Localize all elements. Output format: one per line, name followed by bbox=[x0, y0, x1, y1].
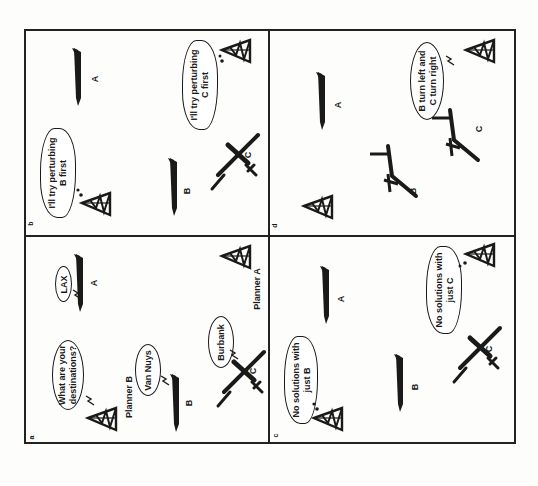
airliner-side-icon bbox=[316, 72, 328, 132]
radio-tower-icon bbox=[314, 408, 344, 432]
panel-letter: c bbox=[272, 434, 279, 438]
planner-b-label: Planner B bbox=[124, 376, 134, 418]
lightning-bolt-icon bbox=[446, 56, 458, 68]
panel-letter: a bbox=[28, 436, 35, 440]
airliner-top-icon bbox=[460, 328, 504, 388]
planner-a-label: Planner A bbox=[252, 268, 262, 310]
aircraft-label-c: C bbox=[248, 368, 258, 375]
airliner-top-icon bbox=[224, 352, 268, 412]
airliner-side-icon bbox=[170, 374, 182, 434]
aircraft-label-a: A bbox=[336, 296, 346, 303]
airliner-side-icon bbox=[74, 254, 86, 314]
lightning-bolt-icon bbox=[161, 376, 169, 386]
radio-tower-icon bbox=[466, 244, 496, 268]
aircraft-label-c: C bbox=[484, 346, 494, 353]
aircraft-label-c: C bbox=[243, 152, 253, 159]
speech-bubble-lax: LAX bbox=[55, 266, 72, 302]
aircraft-label-b: B bbox=[410, 384, 420, 391]
bubble-text-line2: C first bbox=[200, 49, 211, 120]
airliner-turning-icon bbox=[432, 110, 482, 160]
speech-bubble-turn-instructions: B turn left and C turn right bbox=[410, 42, 444, 120]
speech-bubble-destinations: What are your destinations? bbox=[52, 340, 84, 410]
airliner-side-icon bbox=[320, 266, 332, 326]
speech-bubble-van-nuys: Van Nuys bbox=[135, 344, 161, 396]
panel-letter: d bbox=[271, 223, 278, 227]
aircraft-label-b: B bbox=[182, 188, 192, 195]
airliner-side-icon bbox=[168, 158, 180, 218]
bubble-text-line1: I'll try perturbing bbox=[47, 137, 58, 208]
airliner-side-icon bbox=[72, 48, 84, 108]
aircraft-label-c: C bbox=[474, 126, 484, 133]
radio-tower-icon bbox=[304, 196, 334, 220]
thought-bubble-c-first: I'll try perturbing C first bbox=[182, 40, 218, 130]
thought-bubble-b-first: I'll try perturbing B first bbox=[40, 128, 76, 218]
airliner-side-icon bbox=[394, 354, 406, 414]
aircraft-label-a: A bbox=[89, 280, 99, 287]
radio-tower-icon bbox=[466, 40, 496, 64]
radio-tower-icon bbox=[88, 408, 118, 432]
aircraft-label-b: B bbox=[408, 188, 418, 195]
aircraft-label-a: A bbox=[333, 102, 343, 109]
thought-bubble-just-c: No solutions with just C bbox=[426, 246, 462, 334]
panel-letter: b bbox=[27, 221, 34, 225]
lightning-bolt-icon bbox=[86, 396, 94, 406]
radio-tower-icon bbox=[82, 193, 112, 217]
aircraft-label-b: B bbox=[184, 400, 194, 407]
bubble-text-line1: I'll try perturbing bbox=[189, 49, 200, 120]
panel-divider-horizontal bbox=[24, 235, 516, 237]
bubble-text-line2: B first bbox=[58, 137, 69, 208]
aircraft-label-a: A bbox=[90, 76, 100, 83]
airliner-top-icon bbox=[218, 135, 262, 195]
radio-tower-icon bbox=[222, 246, 252, 270]
radio-tower-icon bbox=[222, 40, 252, 64]
